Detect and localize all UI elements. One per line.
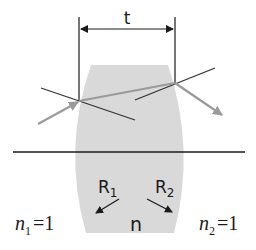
lens-index-label: n (130, 213, 142, 235)
lens-body (75, 65, 184, 233)
exit-ray (175, 83, 222, 115)
medium-left-label: n1=1 (15, 212, 54, 238)
thickness-label: t (124, 8, 131, 28)
incident-ray (38, 102, 78, 124)
medium-right-label: n2=1 (199, 212, 238, 238)
thick-lens-diagram: t R1 R2 n n1=1 n2=1 (0, 0, 256, 250)
